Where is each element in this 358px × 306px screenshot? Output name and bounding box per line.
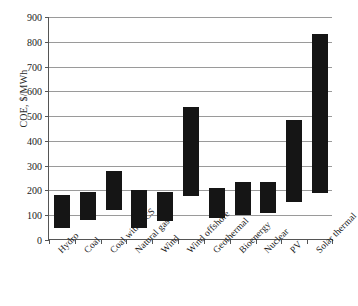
x-axis-label: Solar thermal <box>314 211 358 255</box>
y-tick-mark <box>45 141 49 142</box>
y-tick-mark <box>45 116 49 117</box>
x-axis-label: Wind <box>159 233 181 255</box>
gridline <box>49 17 332 18</box>
y-tick-label: 700 <box>27 61 42 72</box>
y-tick-mark <box>45 166 49 167</box>
y-tick-label: 500 <box>27 111 42 122</box>
gridline <box>49 91 332 92</box>
bar-wind-offshore <box>183 107 199 196</box>
y-axis-title: COE, $/MWh <box>18 29 29 169</box>
y-tick-label: 800 <box>27 36 42 47</box>
y-tick-label: 100 <box>27 210 42 221</box>
bar-nuclear <box>260 182 276 213</box>
bar-hydro <box>54 195 70 227</box>
bar-bioenergy <box>235 182 251 215</box>
gridline <box>49 67 332 68</box>
y-tick-mark <box>45 215 49 216</box>
x-axis-label: Coal <box>82 235 102 255</box>
x-axis-label: PV <box>288 239 304 255</box>
y-tick-label: 600 <box>27 86 42 97</box>
x-axis-label: Hydro <box>56 230 81 255</box>
bar-coal <box>80 192 96 220</box>
y-tick-mark <box>45 91 49 92</box>
y-tick-mark <box>45 42 49 43</box>
bar-solar-thermal <box>312 34 328 194</box>
y-tick-label: 200 <box>27 185 42 196</box>
y-tick-label: 900 <box>27 12 42 23</box>
y-tick-mark <box>45 17 49 18</box>
y-tick-label: 400 <box>27 135 42 146</box>
x-tick-mark <box>49 239 50 244</box>
gridline <box>49 42 332 43</box>
y-tick-mark <box>45 190 49 191</box>
plot-area: 0100200300400500600700800900 HydroCoalCo… <box>48 17 332 240</box>
x-tick-mark <box>307 239 308 244</box>
y-tick-mark <box>45 67 49 68</box>
y-tick-label: 300 <box>27 160 42 171</box>
bar-coal-with-ccs <box>106 171 122 210</box>
bar-pv <box>286 120 302 201</box>
y-tick-label: 0 <box>37 235 42 246</box>
